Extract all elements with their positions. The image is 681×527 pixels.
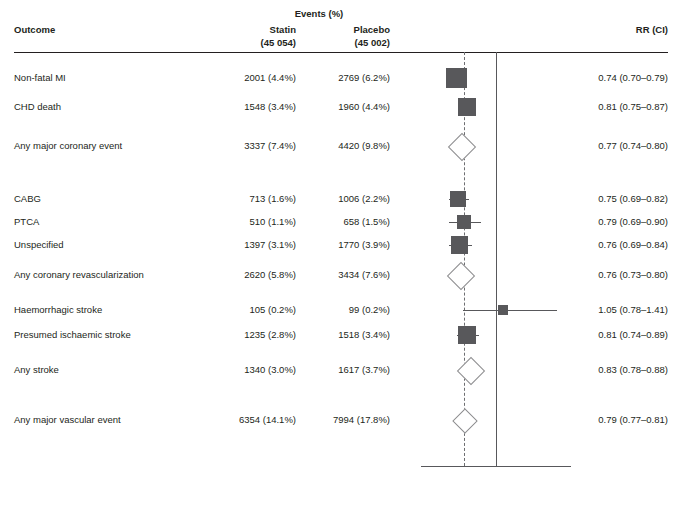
row-statin-events: 2620 (5.8%) <box>244 270 296 280</box>
forest-plot: Events (%)OutcomeStatin(45 054)Placebo(4… <box>0 0 681 527</box>
row-placebo-events: 4420 (9.8%) <box>338 141 390 151</box>
row-placebo-events: 1518 (3.4%) <box>338 330 390 340</box>
row-rr-ci: 0.76 (0.73–0.80) <box>598 270 668 280</box>
row-outcome-label: Any major coronary event <box>14 141 122 151</box>
row-rr-ci: 1.05 (0.78–1.41) <box>598 305 668 315</box>
row-rr-ci: 0.74 (0.70–0.79) <box>598 73 668 83</box>
row-point-estimate-marker <box>451 236 469 254</box>
row-statin-events: 1340 (3.0%) <box>244 365 296 375</box>
row-statin-events: 6354 (14.1%) <box>239 415 296 425</box>
row-summary-diamond <box>452 408 477 433</box>
row-rr-ci: 0.83 (0.78–0.88) <box>598 365 668 375</box>
statin-column-n: (45 054) <box>261 38 296 48</box>
row-point-estimate-marker <box>450 191 466 207</box>
row-rr-ci: 0.77 (0.74–0.80) <box>598 141 668 151</box>
row-placebo-events: 1960 (4.4%) <box>338 102 390 112</box>
row-placebo-events: 3434 (7.6%) <box>338 270 390 280</box>
row-statin-events: 713 (1.6%) <box>250 194 296 204</box>
row-statin-events: 1397 (3.1%) <box>244 240 296 250</box>
row-rr-ci: 0.81 (0.74–0.89) <box>598 330 668 340</box>
row-outcome-label: Unspecified <box>14 240 64 250</box>
row-point-estimate-marker <box>457 215 470 228</box>
row-outcome-label: Any major vascular event <box>14 415 121 425</box>
row-outcome-label: PTCA <box>14 217 39 227</box>
row-rr-ci: 0.79 (0.77–0.81) <box>598 415 668 425</box>
header-rule <box>14 52 668 53</box>
row-point-estimate-marker <box>458 98 476 116</box>
row-outcome-label: Any coronary revascularization <box>14 270 144 280</box>
row-point-estimate-marker <box>498 305 508 315</box>
row-statin-events: 1235 (2.8%) <box>244 330 296 340</box>
row-summary-diamond <box>457 357 485 385</box>
statin-column-header: Statin <box>270 25 296 35</box>
outcome-column-header: Outcome <box>14 25 55 35</box>
placebo-column-n: (45 002) <box>355 38 390 48</box>
row-outcome-label: Haemorrhagic stroke <box>14 305 102 315</box>
row-placebo-events: 1770 (3.9%) <box>338 240 390 250</box>
row-rr-ci: 0.81 (0.75–0.87) <box>598 102 668 112</box>
null-effect-line <box>496 52 497 466</box>
row-placebo-events: 1617 (3.7%) <box>338 365 390 375</box>
row-outcome-label: Any stroke <box>14 365 59 375</box>
row-outcome-label: CABG <box>14 194 41 204</box>
row-rr-ci: 0.76 (0.69–0.84) <box>598 240 668 250</box>
row-rr-ci: 0.79 (0.69–0.90) <box>598 217 668 227</box>
row-point-estimate-marker <box>458 326 476 344</box>
row-summary-diamond <box>448 133 476 161</box>
row-rr-ci: 0.75 (0.69–0.82) <box>598 194 668 204</box>
row-outcome-label: Presumed ischaemic stroke <box>14 330 131 340</box>
row-confidence-interval <box>463 310 558 311</box>
placebo-column-header: Placebo <box>354 25 390 35</box>
row-outcome-label: CHD death <box>14 102 61 112</box>
row-statin-events: 510 (1.1%) <box>250 217 296 227</box>
row-placebo-events: 658 (1.5%) <box>344 217 390 227</box>
row-statin-events: 2001 (4.4%) <box>244 73 296 83</box>
row-placebo-events: 99 (0.2%) <box>349 305 390 315</box>
row-summary-diamond <box>446 262 474 290</box>
x-axis-line <box>421 466 571 467</box>
row-outcome-label: Non-fatal MI <box>14 73 66 83</box>
events-group-header: Events (%) <box>295 9 344 19</box>
row-statin-events: 1548 (3.4%) <box>244 102 296 112</box>
row-placebo-events: 2769 (6.2%) <box>338 73 390 83</box>
row-placebo-events: 7994 (17.8%) <box>333 415 390 425</box>
row-point-estimate-marker <box>446 68 467 89</box>
row-statin-events: 105 (0.2%) <box>250 305 296 315</box>
row-statin-events: 3337 (7.4%) <box>244 141 296 151</box>
rr-column-header: RR (CI) <box>636 25 668 35</box>
row-placebo-events: 1006 (2.2%) <box>338 194 390 204</box>
